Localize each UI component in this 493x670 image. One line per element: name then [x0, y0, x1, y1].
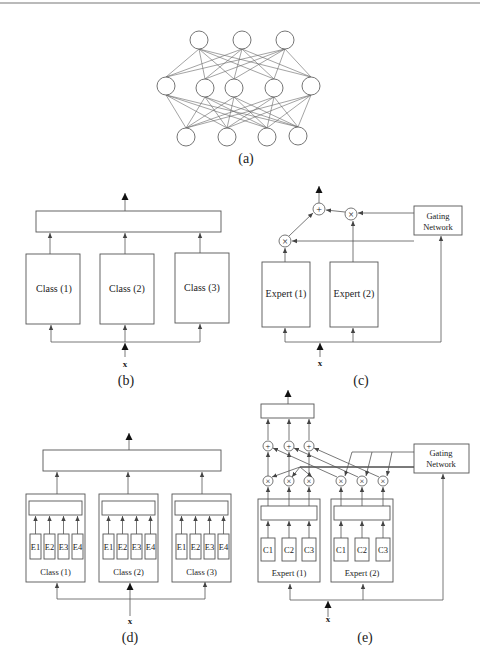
caption-a: (a) [238, 151, 254, 167]
panel-a-neural-network: (a) [157, 31, 320, 167]
expert-label: Expert (1) [272, 568, 307, 578]
expert-1-label: Expert (1) [266, 288, 307, 300]
neuron-node [258, 128, 276, 146]
svg-text:×: × [339, 476, 344, 486]
input-x-c: x [318, 358, 323, 368]
svg-text:E4: E4 [219, 542, 229, 552]
svg-text:+: + [266, 441, 271, 451]
svg-text:E3: E3 [132, 542, 141, 552]
svg-text:C2: C2 [357, 545, 367, 555]
panel-e: +++ ×××××× Gating Network C1C2C3Expert (… [258, 390, 469, 646]
svg-text:E2: E2 [118, 542, 127, 552]
svg-text:×: × [287, 476, 292, 486]
svg-text:E4: E4 [73, 542, 83, 552]
svg-text:E4: E4 [146, 542, 156, 552]
neuron-node [218, 128, 236, 146]
panel-b: Class (1) Class (2) Class (3) x (b) [26, 193, 229, 389]
caption-d: (d) [122, 630, 139, 646]
neuron-node [233, 31, 251, 49]
class-label: Class (2) [113, 567, 144, 577]
svg-text:E1: E1 [177, 542, 186, 552]
combiner-box-e [261, 404, 314, 418]
neuron-node [196, 79, 214, 97]
input-x-e: x [326, 614, 331, 624]
class-3-label: Class (3) [184, 282, 220, 294]
svg-text:Gating: Gating [426, 211, 450, 221]
combiner-box-d [43, 450, 221, 471]
neuron-node [177, 128, 195, 146]
caption-c: (c) [353, 373, 369, 389]
panel-c: + × × Gating Network Expert (1) Expert (… [262, 186, 462, 389]
svg-text:+: + [316, 204, 322, 215]
svg-text:E3: E3 [59, 542, 68, 552]
neuron-node [190, 31, 208, 49]
svg-text:Gating: Gating [429, 448, 453, 458]
svg-text:E3: E3 [205, 542, 214, 552]
combiner-box [36, 211, 221, 232]
svg-text:E2: E2 [191, 542, 200, 552]
svg-text:+: + [307, 441, 312, 451]
neuron-node [302, 77, 320, 95]
svg-text:+: + [287, 441, 292, 451]
svg-text:×: × [381, 476, 386, 486]
class-2-label: Class (2) [109, 283, 145, 295]
svg-text:C1: C1 [263, 545, 273, 555]
neuron-node [276, 31, 294, 49]
neuron-node [225, 79, 243, 97]
svg-text:×: × [348, 209, 354, 220]
caption-b: (b) [118, 373, 135, 389]
svg-text:C3: C3 [304, 545, 314, 555]
caption-e: (e) [357, 630, 373, 646]
neuron-node [157, 77, 175, 95]
svg-text:×: × [360, 476, 365, 486]
neuron-node [265, 79, 283, 97]
svg-text:C3: C3 [378, 545, 388, 555]
svg-text:×: × [282, 236, 288, 247]
svg-text:×: × [266, 476, 271, 486]
svg-text:Network: Network [426, 459, 456, 469]
class-label: Class (3) [186, 567, 217, 577]
svg-text:×: × [307, 476, 312, 486]
svg-text:E1: E1 [104, 542, 113, 552]
input-x-b: x [123, 359, 128, 369]
class-1-label: Class (1) [36, 283, 72, 295]
svg-text:E2: E2 [45, 542, 54, 552]
svg-text:C1: C1 [336, 545, 346, 555]
class-label: Class (1) [40, 567, 71, 577]
figure-canvas: (a) Class (1) Class (2) Class (3) x (b) … [0, 0, 493, 670]
expert-label: Expert (2) [345, 568, 380, 578]
svg-text:E1: E1 [31, 542, 40, 552]
svg-text:Network: Network [423, 222, 453, 232]
panel-d: E1E2E3E4Class (1)E1E2E3E4Class (2)E1E2E3… [26, 433, 231, 646]
svg-text:C2: C2 [284, 545, 294, 555]
expert-2-label: Expert (2) [334, 288, 375, 300]
input-x-d: x [128, 616, 133, 626]
neuron-node [289, 127, 307, 145]
